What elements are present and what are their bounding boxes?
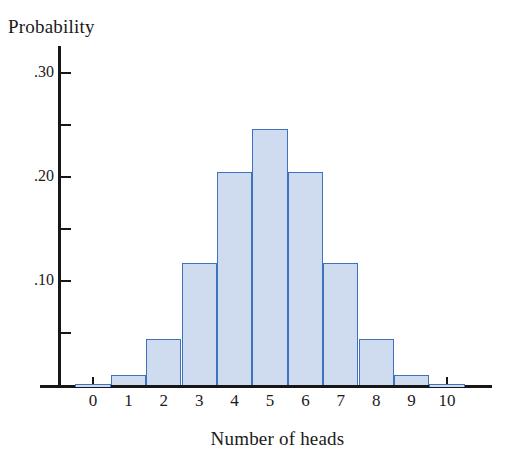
histogram-bar bbox=[111, 375, 146, 385]
y-axis-tick-label: .10 bbox=[14, 271, 54, 289]
x-axis-tick-label: 3 bbox=[182, 391, 216, 411]
histogram-bar bbox=[288, 172, 323, 385]
histogram-bar bbox=[429, 384, 464, 387]
histogram-bar bbox=[252, 129, 287, 385]
histogram-bar bbox=[394, 375, 429, 385]
x-axis-tick-label: 5 bbox=[253, 391, 287, 411]
probability-histogram-figure: Probability .10.20.30 012345678910 Numbe… bbox=[0, 0, 521, 466]
y-axis-major-tick bbox=[60, 176, 71, 178]
y-axis-major-tick bbox=[60, 280, 71, 282]
histogram-bar bbox=[182, 263, 217, 385]
y-axis-tick-label: .20 bbox=[14, 167, 54, 185]
x-axis-tick-label: 8 bbox=[359, 391, 393, 411]
x-axis-tick-label: 1 bbox=[111, 391, 145, 411]
y-axis-line bbox=[58, 46, 61, 387]
y-axis-minor-tick bbox=[60, 332, 71, 334]
x-axis-tick-label: 10 bbox=[430, 391, 464, 411]
y-axis-major-tick bbox=[60, 72, 71, 74]
x-axis-tick-label: 4 bbox=[218, 391, 252, 411]
y-axis-tick-label-wrap: .10 bbox=[8, 271, 54, 289]
y-axis-tick-label-wrap: .30 bbox=[8, 63, 54, 81]
x-axis-title: Number of heads bbox=[0, 428, 521, 450]
x-axis-tick-label: 6 bbox=[288, 391, 322, 411]
x-axis-tick-label: 9 bbox=[395, 391, 429, 411]
histogram-bar bbox=[217, 172, 252, 385]
y-axis-minor-tick bbox=[60, 124, 71, 126]
histogram-bar bbox=[359, 339, 394, 385]
y-axis-tick-label-wrap: .20 bbox=[8, 167, 54, 185]
histogram-bar bbox=[75, 384, 110, 387]
plot-area: .10.20.30 012345678910 bbox=[0, 0, 521, 466]
x-axis-tick-label: 7 bbox=[324, 391, 358, 411]
histogram-bar bbox=[323, 263, 358, 385]
y-axis-minor-tick bbox=[60, 228, 71, 230]
x-axis-tick-label: 0 bbox=[76, 391, 110, 411]
histogram-bar bbox=[146, 339, 181, 385]
x-axis-title-text: Number of heads bbox=[177, 428, 345, 449]
x-axis-tick-label: 2 bbox=[147, 391, 181, 411]
y-axis-tick-label: .30 bbox=[14, 63, 54, 81]
